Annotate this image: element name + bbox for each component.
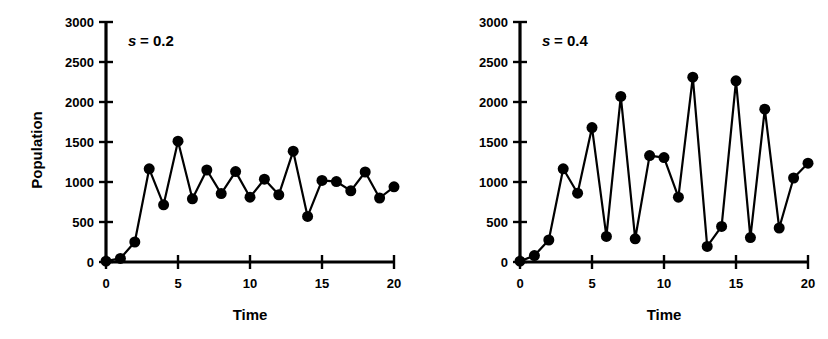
x-tick-label-15: 15 bbox=[315, 276, 329, 291]
figure-container: 3000 2500 2000 1500 1000 500 0 Populatio… bbox=[0, 0, 828, 339]
data-point bbox=[543, 235, 554, 246]
data-point bbox=[187, 193, 198, 204]
data-point bbox=[572, 188, 583, 199]
chart-panel-right: 3000 2500 2000 1500 1000 500 0 0 bbox=[414, 0, 828, 339]
x-tick-label-10: 10 bbox=[657, 276, 671, 291]
data-point bbox=[788, 173, 799, 184]
annotation-value: = 0.4 bbox=[554, 32, 588, 49]
data-point bbox=[360, 167, 371, 178]
y-tick-label-2500: 2500 bbox=[65, 55, 94, 70]
data-point bbox=[216, 188, 227, 199]
data-point bbox=[716, 221, 727, 232]
data-point bbox=[687, 72, 698, 83]
x-axis-title: Time bbox=[233, 306, 268, 323]
data-point bbox=[774, 223, 785, 234]
y-tick-label-1000: 1000 bbox=[65, 175, 94, 190]
data-point bbox=[374, 193, 385, 204]
data-point bbox=[601, 231, 612, 242]
x-tick-label-15: 15 bbox=[729, 276, 743, 291]
data-point bbox=[389, 181, 400, 192]
y-tick-label-500: 500 bbox=[72, 215, 94, 230]
y-tick-label-3000: 3000 bbox=[479, 15, 508, 30]
data-point bbox=[173, 136, 184, 147]
chart-svg-right: 3000 2500 2000 1500 1000 500 0 0 bbox=[414, 0, 828, 339]
data-point bbox=[345, 185, 356, 196]
data-point bbox=[230, 166, 241, 177]
data-point bbox=[515, 256, 526, 267]
data-point bbox=[587, 122, 598, 133]
series-markers-right bbox=[515, 72, 814, 267]
data-point bbox=[558, 163, 569, 174]
y-tick-label-1500: 1500 bbox=[65, 135, 94, 150]
x-tick-label-10: 10 bbox=[243, 276, 257, 291]
data-point bbox=[659, 152, 670, 163]
y-tick-label-3000: 3000 bbox=[65, 15, 94, 30]
y-tick-label-1500: 1500 bbox=[479, 135, 508, 150]
data-point bbox=[129, 237, 140, 248]
y-tick-label-2000: 2000 bbox=[65, 95, 94, 110]
data-point bbox=[302, 211, 313, 222]
y-tick-label-0: 0 bbox=[501, 255, 508, 270]
annotation-symbol: s bbox=[542, 32, 550, 49]
chart-panel-left: 3000 2500 2000 1500 1000 500 0 Populatio… bbox=[0, 0, 414, 339]
data-point bbox=[273, 189, 284, 200]
data-point bbox=[529, 250, 540, 261]
y-axis-group-left: 3000 2500 2000 1500 1000 500 0 Populatio… bbox=[28, 15, 113, 270]
y-tick-label-1000: 1000 bbox=[479, 175, 508, 190]
chart-svg-left: 3000 2500 2000 1500 1000 500 0 Populatio… bbox=[0, 0, 414, 339]
data-point bbox=[630, 233, 641, 244]
y-axis-title: Population bbox=[28, 111, 45, 189]
x-axis-title: Time bbox=[647, 306, 682, 323]
data-point bbox=[101, 256, 112, 267]
annotation-symbol: s bbox=[128, 32, 136, 49]
data-point bbox=[803, 158, 814, 169]
data-point bbox=[615, 91, 626, 102]
y-axis-group-right: 3000 2500 2000 1500 1000 500 0 bbox=[479, 15, 527, 270]
y-tick-label-500: 500 bbox=[486, 215, 508, 230]
x-axis-group-right: 0 5 10 15 20 Time bbox=[516, 255, 815, 323]
data-point bbox=[259, 174, 270, 185]
data-point bbox=[144, 163, 155, 174]
data-point bbox=[245, 192, 256, 203]
data-point bbox=[644, 150, 655, 161]
series-markers-left bbox=[101, 136, 400, 267]
x-axis-group-left: 0 5 10 15 20 Time bbox=[102, 255, 401, 323]
annotation-value: = 0.2 bbox=[140, 32, 174, 49]
x-tick-label-0: 0 bbox=[516, 276, 523, 291]
data-point bbox=[731, 75, 742, 86]
data-point bbox=[759, 104, 770, 115]
x-tick-label-5: 5 bbox=[174, 276, 181, 291]
panel-annotation-right: s = 0.4 bbox=[542, 32, 588, 49]
data-point bbox=[702, 241, 713, 252]
data-point bbox=[317, 175, 328, 186]
y-tick-label-2000: 2000 bbox=[479, 95, 508, 110]
y-tick-label-0: 0 bbox=[87, 255, 94, 270]
data-point bbox=[673, 192, 684, 203]
data-point bbox=[201, 165, 212, 176]
data-point bbox=[158, 199, 169, 210]
x-tick-label-5: 5 bbox=[588, 276, 595, 291]
data-point bbox=[331, 176, 342, 187]
panel-annotation-left: s = 0.2 bbox=[128, 32, 174, 49]
x-tick-label-20: 20 bbox=[801, 276, 815, 291]
x-tick-label-0: 0 bbox=[102, 276, 109, 291]
data-point bbox=[745, 232, 756, 243]
x-tick-label-20: 20 bbox=[387, 276, 401, 291]
y-tick-label-2500: 2500 bbox=[479, 55, 508, 70]
data-point bbox=[115, 253, 126, 264]
data-point bbox=[288, 146, 299, 157]
